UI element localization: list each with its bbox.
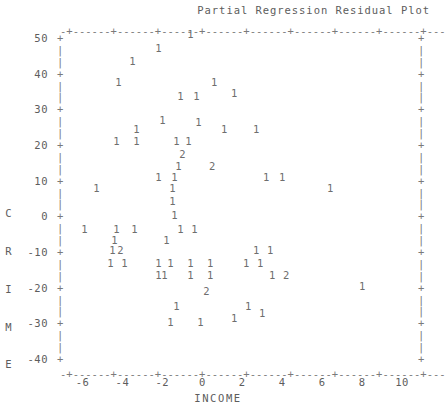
data-point-marker: 2 xyxy=(203,286,209,297)
axis-frame-bar-left: | xyxy=(57,234,63,246)
axis-frame-bar-right: | xyxy=(418,270,424,282)
y-axis-tick-mark-right: + xyxy=(418,317,424,329)
y-axis-label-char: M xyxy=(3,321,14,334)
top-axis-rule: -+------+------+------+------+------+---… xyxy=(60,26,446,36)
axis-frame-bar-left: | xyxy=(57,294,63,306)
data-point-marker: 1 xyxy=(253,124,259,135)
data-point-marker: 1 xyxy=(185,136,191,147)
y-axis-tick-label: -10 xyxy=(14,246,48,258)
axis-frame-bar-right: | xyxy=(418,115,424,127)
data-point-marker: 1 xyxy=(109,245,115,256)
axis-frame-bar-right: | xyxy=(418,91,424,103)
y-axis-tick-mark: + xyxy=(57,246,63,258)
y-axis-tick-mark-right: + xyxy=(418,103,424,115)
data-point-marker: 1 xyxy=(243,257,249,268)
axis-frame-bar-right: | xyxy=(418,222,424,234)
y-axis-tick-label: 50 xyxy=(14,32,48,44)
axis-frame-bar-right: | xyxy=(418,44,424,56)
data-point-marker: 1 xyxy=(155,257,161,268)
data-point-marker: 1 xyxy=(169,196,175,207)
data-point-marker: 1 xyxy=(257,257,263,268)
data-point-marker: 1 xyxy=(207,270,213,281)
axis-frame-bar-right: | xyxy=(418,329,424,341)
data-point-marker: 1 xyxy=(195,117,201,128)
x-axis-tick-label: 6 xyxy=(302,376,342,388)
data-point-marker: 2 xyxy=(179,149,185,160)
y-axis-tick-label: 10 xyxy=(14,175,48,187)
data-point-marker: 1 xyxy=(81,224,87,235)
y-axis-tick-mark: + xyxy=(57,139,63,151)
y-axis-tick-label: 20 xyxy=(14,139,48,151)
axis-frame-bar-left: | xyxy=(57,91,63,103)
data-point-marker: 1 xyxy=(253,245,259,256)
x-axis-label: INCOME xyxy=(0,392,436,404)
axis-frame-bar-left: | xyxy=(57,115,63,127)
data-point-marker: 1 xyxy=(193,91,199,102)
axis-frame-bar-left: | xyxy=(57,56,63,68)
axis-frame-bar-right: | xyxy=(418,127,424,139)
axis-frame-bar-right: | xyxy=(418,305,424,317)
y-axis-tick-mark-right: + xyxy=(418,353,424,365)
data-point-marker: 1 xyxy=(177,224,183,235)
data-point-marker: 1 xyxy=(133,136,139,147)
data-point-marker: 1 xyxy=(187,29,193,40)
data-point-marker: 1 xyxy=(155,172,161,183)
x-axis-tick-label: 0 xyxy=(182,376,222,388)
y-axis-tick-label: -20 xyxy=(14,282,48,294)
axis-frame-bar-left: | xyxy=(57,163,63,175)
data-point-marker: 2 xyxy=(117,245,123,256)
data-point-marker: 1 xyxy=(129,56,135,67)
data-point-marker: 1 xyxy=(231,88,237,99)
data-point-marker: 1 xyxy=(221,124,227,135)
y-axis-tick-mark-right: + xyxy=(418,175,424,187)
x-axis-tick-label: -6 xyxy=(62,376,102,388)
axis-frame-bar-right: | xyxy=(418,151,424,163)
data-point-marker: 1 xyxy=(231,313,237,324)
y-axis-tick-mark: + xyxy=(57,68,63,80)
x-axis-tick-label: 2 xyxy=(222,376,262,388)
x-axis-tick-label: 4 xyxy=(262,376,302,388)
data-point-marker: 1 xyxy=(269,270,275,281)
data-point-marker: 1 xyxy=(207,257,213,268)
y-axis-tick-mark: + xyxy=(57,175,63,187)
y-axis-tick-mark: + xyxy=(57,32,63,44)
y-axis-tick-label: -40 xyxy=(14,353,48,365)
data-point-marker: 1 xyxy=(93,183,99,194)
y-axis-tick-label: 40 xyxy=(14,68,48,80)
page-title: Partial Regression Residual Plot xyxy=(197,4,430,16)
data-point-marker: 1 xyxy=(173,300,179,311)
data-point-marker: 1 xyxy=(173,136,179,147)
data-point-marker: 1 xyxy=(115,76,121,87)
data-point-marker: 1 xyxy=(211,76,217,87)
data-point-marker: 1 xyxy=(245,300,251,311)
y-axis-tick-mark: + xyxy=(57,210,63,222)
data-point-marker: 1 xyxy=(161,270,167,281)
y-axis-label-char: E xyxy=(3,358,14,371)
y-axis-label-char: R xyxy=(3,245,14,258)
data-point-marker: 1 xyxy=(177,91,183,102)
axis-frame-bar-right: | xyxy=(418,234,424,246)
axis-frame-bar-left: | xyxy=(57,270,63,282)
axis-frame-bar-right: | xyxy=(418,56,424,68)
data-point-marker: 1 xyxy=(131,224,137,235)
y-axis-tick-mark: + xyxy=(57,103,63,115)
data-point-marker: 1 xyxy=(167,316,173,327)
data-point-marker: 1 xyxy=(169,183,175,194)
axis-frame-bar-left: | xyxy=(57,222,63,234)
axis-frame-bar-right: | xyxy=(418,341,424,353)
axis-frame-bar-left: | xyxy=(57,329,63,341)
data-point-marker: 1 xyxy=(259,307,265,318)
y-axis-tick-mark-right: + xyxy=(418,68,424,80)
data-point-marker: 1 xyxy=(167,257,173,268)
data-point-marker: 1 xyxy=(159,115,165,126)
y-axis-tick-mark: + xyxy=(57,282,63,294)
axis-frame-bar-left: | xyxy=(57,80,63,92)
x-axis-tick-label: -4 xyxy=(102,376,142,388)
y-axis-tick-label: 0 xyxy=(14,210,48,222)
data-point-marker: 1 xyxy=(187,270,193,281)
axis-frame-bar-right: | xyxy=(418,258,424,270)
data-point-marker: 1 xyxy=(175,160,181,171)
y-axis-label-char: I xyxy=(3,283,14,296)
axis-frame-bar-left: | xyxy=(57,151,63,163)
data-point-marker: 1 xyxy=(327,183,333,194)
